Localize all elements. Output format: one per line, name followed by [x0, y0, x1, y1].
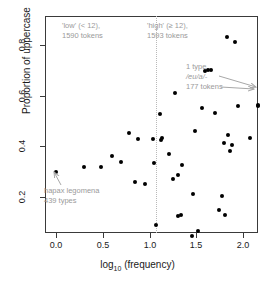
data-point	[82, 165, 86, 169]
data-point	[193, 129, 197, 133]
data-point	[248, 136, 252, 140]
reference-line-vertical	[156, 16, 157, 233]
x-tick-4	[243, 233, 244, 238]
data-point	[256, 103, 260, 107]
data-point	[213, 111, 217, 115]
data-point	[223, 213, 227, 217]
data-point	[152, 161, 156, 165]
data-point	[236, 104, 240, 108]
data-point	[99, 165, 103, 169]
data-point	[158, 112, 162, 116]
annotation-low-group-line1: 'low' (< 12),	[62, 21, 103, 31]
x-axis-title: log10 (frequency)	[0, 259, 275, 272]
x-tick-0	[56, 233, 57, 238]
data-point	[133, 180, 137, 184]
annotation-hapax-line2: 439 types	[44, 196, 99, 206]
data-point	[173, 91, 177, 95]
data-point	[110, 154, 114, 158]
data-point	[220, 194, 224, 198]
y-tick-label-2: 0.6	[17, 90, 27, 103]
y-tick-label-3: 0.8	[17, 39, 27, 52]
data-point	[167, 152, 171, 156]
chart-canvas: Proportion of uppercase 0.2 0.4 0.6 0.8 …	[0, 0, 275, 282]
annotation-high-group-line2: 1593 tokens	[147, 31, 188, 41]
annotation-high-group-line1: 'high' (≥ 12),	[147, 21, 188, 31]
x-tick-3	[196, 233, 197, 238]
data-point	[228, 149, 232, 153]
x-tick-label-0: 0.0	[50, 240, 63, 250]
x-tick-1	[103, 233, 104, 238]
data-point	[136, 137, 140, 141]
data-point	[154, 223, 158, 227]
annotation-top-type-line3: 177 tokens	[186, 82, 223, 92]
data-point	[190, 234, 194, 238]
annotation-hapax-line1: hapax legomena	[44, 186, 99, 196]
data-point	[151, 137, 155, 141]
data-point	[176, 173, 180, 177]
data-point	[127, 131, 131, 135]
data-point	[119, 160, 123, 164]
annotation-top-type-line2: /eu/a/-	[186, 72, 223, 82]
annotation-high-group: 'high' (≥ 12), 1593 tokens	[147, 21, 188, 41]
data-point	[160, 136, 164, 140]
x-tick-label-3: 1.5	[190, 240, 203, 250]
y-axis-title: Proportion of uppercase	[21, 0, 32, 141]
data-point	[225, 35, 229, 39]
data-point	[222, 141, 226, 145]
data-point	[171, 177, 175, 181]
x-tick-2	[150, 233, 151, 238]
x-axis-title-subscript: 10	[114, 265, 122, 272]
data-point	[200, 106, 204, 110]
data-point	[143, 182, 147, 186]
x-tick-label-4: 2.0	[237, 240, 250, 250]
annotation-low-group-line2: 1590 tokens	[62, 31, 103, 41]
data-point	[180, 163, 184, 167]
data-point	[179, 213, 183, 217]
data-point	[54, 170, 58, 174]
annotation-top-type-line1: 1 type	[186, 62, 223, 72]
annotation-low-group: 'low' (< 12), 1590 tokens	[62, 21, 103, 41]
data-point	[191, 192, 195, 196]
x-tick-label-2: 1.0	[144, 240, 157, 250]
annotation-top-type: 1 type /eu/a/- 177 tokens	[186, 62, 223, 92]
data-point	[226, 133, 230, 137]
data-point	[217, 208, 221, 212]
x-tick-label-1: 0.5	[97, 240, 110, 250]
y-tick-label-0: 0.2	[17, 191, 27, 204]
y-tick-label-1: 0.4	[17, 140, 27, 153]
annotation-hapax: hapax legomena 439 types	[44, 186, 99, 206]
data-point	[196, 229, 200, 233]
data-point	[233, 40, 237, 44]
data-point	[230, 143, 234, 147]
